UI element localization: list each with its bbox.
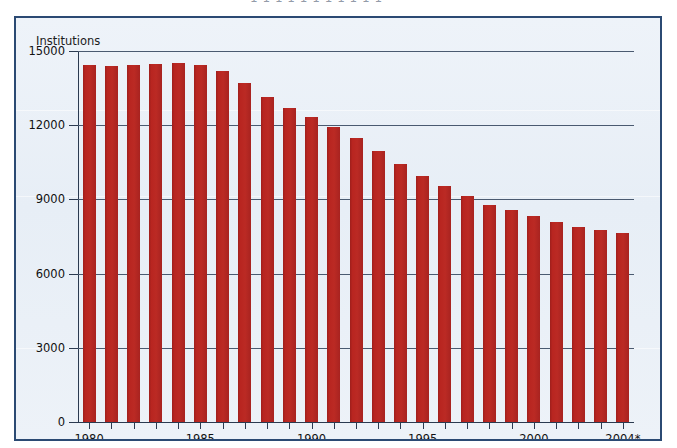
x-tick	[200, 422, 201, 429]
bar	[572, 227, 585, 422]
bar	[83, 65, 96, 422]
y-tick-label: 9000	[36, 192, 65, 206]
x-tick	[534, 422, 535, 429]
y-tick-label: 12000	[28, 118, 65, 132]
bar	[216, 71, 229, 422]
x-tick-label: 1990	[297, 432, 326, 441]
x-tick	[334, 422, 335, 429]
x-tick	[89, 422, 90, 429]
x-tick	[489, 422, 490, 429]
x-tick	[289, 422, 290, 429]
x-tick	[601, 422, 602, 429]
x-tick-label: 2004*	[605, 432, 640, 441]
bar	[105, 66, 118, 423]
bar	[327, 127, 340, 422]
x-tick	[578, 422, 579, 429]
bar	[416, 176, 429, 422]
y-tick-6000	[69, 274, 78, 275]
y-tick-label: 3000	[36, 341, 65, 355]
bar	[238, 83, 251, 422]
x-tick	[512, 422, 513, 429]
x-tick	[556, 422, 557, 429]
y-tick-15000	[69, 51, 78, 52]
chart-panel: Institutions 03000600090001200015000 198…	[14, 16, 662, 441]
bar	[149, 64, 162, 422]
x-tick-label: 1985	[186, 432, 215, 441]
x-tick	[312, 422, 313, 429]
bar	[483, 205, 496, 422]
bar	[550, 222, 563, 422]
x-tick-label: 1995	[408, 432, 437, 441]
bar	[283, 108, 296, 422]
x-tick	[134, 422, 135, 429]
clipped-caption-fragment: 1 1 1 1 1 1 1 1 1 1 1	[250, 0, 383, 5]
y-tick-0	[69, 422, 78, 423]
bar	[594, 230, 607, 422]
x-tick-label: 2000	[519, 432, 548, 441]
bar	[172, 63, 185, 422]
bar	[505, 210, 518, 422]
x-tick	[356, 422, 357, 429]
bar	[305, 117, 318, 422]
gridline-15000	[78, 51, 634, 52]
bar	[394, 164, 407, 423]
y-tick-label: 6000	[36, 267, 65, 281]
x-tick	[178, 422, 179, 429]
bar	[372, 151, 385, 422]
y-tick-label: 0	[58, 415, 65, 429]
bar	[127, 65, 140, 422]
x-tick	[245, 422, 246, 429]
bar	[616, 233, 629, 422]
y-tick-label: 15000	[28, 44, 65, 58]
x-tick-label: 1980	[74, 432, 103, 441]
bar	[527, 216, 540, 422]
x-tick	[445, 422, 446, 429]
x-tick	[111, 422, 112, 429]
bar	[350, 138, 363, 422]
x-tick	[223, 422, 224, 429]
x-tick	[267, 422, 268, 429]
y-tick-3000	[69, 348, 78, 349]
y-axis-line	[78, 51, 79, 422]
plot-area: 03000600090001200015000 1980198519901995…	[78, 51, 634, 422]
y-tick-9000	[69, 199, 78, 200]
y-tick-12000	[69, 125, 78, 126]
x-tick	[400, 422, 401, 429]
x-tick	[467, 422, 468, 429]
x-tick	[423, 422, 424, 429]
x-tick	[623, 422, 624, 429]
bar	[438, 186, 451, 422]
bar	[461, 196, 474, 422]
x-tick	[156, 422, 157, 429]
x-tick	[378, 422, 379, 429]
scan-top-sliver: 1 1 1 1 1 1 1 1 1 1 1	[0, 0, 677, 14]
bar	[194, 65, 207, 422]
bar	[261, 97, 274, 422]
